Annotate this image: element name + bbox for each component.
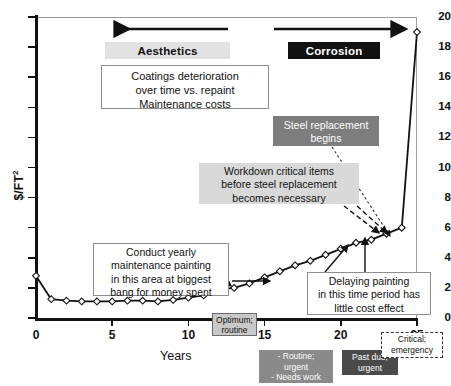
- x-tick: [111, 318, 113, 326]
- status-tag-routine-line1: - Routine;: [259, 351, 333, 362]
- x-tick-label: 10: [182, 329, 195, 341]
- callout-coatings-line3: Maintenance costs: [102, 97, 268, 111]
- callout-delaying-line1: Delaying painting: [308, 275, 430, 288]
- status-tag-past-due-line2: urgent: [342, 363, 398, 374]
- status-tag-routine-urgent: - Routine; urgent - Needs work: [259, 350, 333, 383]
- y-axis-label-text: $/FT: [12, 175, 26, 200]
- x-tick-label: 20: [334, 329, 347, 341]
- y-tick: [28, 16, 36, 18]
- status-tag-optimum: Optimum; routine: [212, 313, 257, 336]
- callout-delaying-line2: in this time period has: [308, 288, 430, 301]
- x-tick: [188, 318, 190, 326]
- y-tick-label: 16: [425, 71, 451, 83]
- x-tick: [416, 318, 418, 326]
- callout-conduct-line2: maintenance painting: [94, 259, 228, 272]
- y-tick-label: 12: [425, 131, 451, 143]
- callout-delaying-line3: little cost effect: [308, 302, 430, 315]
- y-axis-label-exponent: 2: [11, 170, 20, 175]
- y-tick: [28, 137, 36, 139]
- y-tick-label: 8: [425, 192, 451, 204]
- y-tick: [28, 317, 36, 319]
- callout-steel-replacement-line1: Steel replacement: [273, 119, 379, 132]
- status-tag-routine-line3: - Needs work: [259, 372, 333, 383]
- y-tick: [28, 227, 36, 229]
- y-tick: [28, 257, 36, 259]
- callout-conduct: Conduct yearly maintenance painting in t…: [93, 243, 229, 296]
- callout-conduct-line1: Conduct yearly: [94, 246, 228, 259]
- callout-coatings-line2: over time vs. repaint: [102, 83, 268, 97]
- x-tick-label: 15: [258, 329, 271, 341]
- chart-canvas: 02468101214161820 0510152025 $/FT2 Years…: [0, 0, 451, 386]
- y-axis-label: $/FT2: [11, 156, 26, 216]
- y-tick-label: 4: [425, 252, 451, 264]
- y-tick-label: 10: [425, 162, 451, 174]
- callout-steel-replacement: Steel replacement begins: [273, 116, 379, 146]
- callout-workdown-line3: becomes necessary: [199, 192, 359, 205]
- x-tick-label: 5: [109, 329, 116, 341]
- x-tick: [264, 318, 266, 326]
- y-tick-label: 18: [425, 41, 451, 53]
- status-tag-critical: Critical; emergency: [381, 332, 443, 358]
- y-tick: [28, 107, 36, 109]
- y-tick: [28, 197, 36, 199]
- callout-workdown-line1: Workdown critical items: [199, 165, 359, 178]
- status-tag-optimum-line1: Optimum;: [213, 315, 256, 325]
- callout-conduct-line4: bang for money spent: [94, 286, 228, 299]
- y-tick: [28, 167, 36, 169]
- status-tag-routine-line2: urgent: [259, 362, 333, 373]
- y-tick-label: 14: [425, 101, 451, 113]
- callout-conduct-line3: in this area at biggest: [94, 273, 228, 286]
- callout-coatings: Coatings deterioration over time vs. rep…: [101, 65, 269, 109]
- x-tick-label: 0: [33, 329, 40, 341]
- callout-workdown-line2: before steel replacement: [199, 178, 359, 191]
- y-tick: [28, 76, 36, 78]
- y-tick-label: 20: [425, 11, 451, 23]
- callout-steel-replacement-line2: begins: [273, 132, 379, 145]
- y-tick-label: 6: [425, 222, 451, 234]
- status-tag-optimum-line2: routine: [213, 325, 256, 335]
- x-tick: [340, 318, 342, 326]
- y-tick: [28, 287, 36, 289]
- banner-corrosion: Corrosion: [288, 42, 380, 59]
- callout-workdown: Workdown critical items before steel rep…: [199, 163, 359, 204]
- status-tag-critical-line1: Critical;: [382, 334, 442, 345]
- callout-delaying: Delaying painting in this time period ha…: [307, 272, 431, 315]
- y-tick: [28, 46, 36, 48]
- status-tag-critical-line2: emergency: [382, 345, 442, 356]
- banner-aesthetics: Aesthetics: [105, 42, 230, 59]
- callout-coatings-line1: Coatings deterioration: [102, 69, 268, 83]
- x-axis-label: Years: [160, 349, 192, 363]
